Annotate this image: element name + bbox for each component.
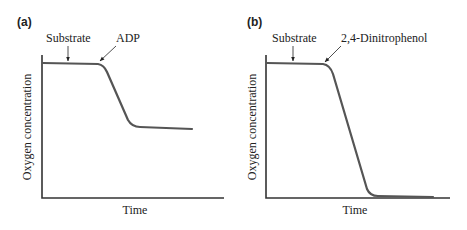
panel-a-oxygen-curve xyxy=(43,63,192,129)
panel-b-dinitrophenol-arrow xyxy=(325,46,341,62)
panel-a: (a) Substrate ADP Time Oxygen concentrat… xyxy=(17,15,224,217)
panel-b-label: (b) xyxy=(247,15,262,29)
oxygen-consumption-figure: (a) Substrate ADP Time Oxygen concentrat… xyxy=(0,0,467,230)
panel-a-y-axis-title: Oxygen concentration xyxy=(20,74,34,180)
panel-a-label: (a) xyxy=(17,15,32,29)
panel-b-x-axis-title: Time xyxy=(343,203,368,217)
panel-a-adp-arrow xyxy=(100,46,116,61)
panel-b-y-axis-title: Oxygen concentration xyxy=(245,74,259,180)
panel-b-dinitrophenol-label: 2,4-Dinitrophenol xyxy=(341,31,428,45)
panel-b-substrate-label: Substrate xyxy=(272,31,317,45)
panel-b-axes xyxy=(266,55,450,198)
panel-a-substrate-label: Substrate xyxy=(46,31,91,45)
panel-a-adp-label: ADP xyxy=(116,31,140,45)
panel-a-x-axis-title: Time xyxy=(123,203,148,217)
panel-b-oxygen-curve xyxy=(267,63,433,197)
panel-b: (b) Substrate 2,4-Dinitrophenol Time Oxy… xyxy=(245,15,450,217)
